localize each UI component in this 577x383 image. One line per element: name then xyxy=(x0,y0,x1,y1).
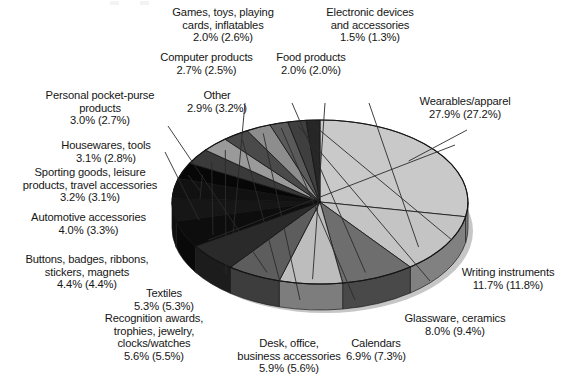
pie-top-faces xyxy=(172,120,468,284)
label-electronic-devices: Electronic devices and accessories 1.5% … xyxy=(300,6,440,44)
label-food-products: Food products 2.0% (2.0%) xyxy=(253,51,369,76)
pie-chart-figure: Games, toys, playing cards, inflatables … xyxy=(0,0,577,383)
label-wearables-apparel: Wearables/apparel 27.9% (27.2%) xyxy=(392,95,538,120)
label-other: Other 2.9% (3.2%) xyxy=(177,89,257,114)
label-recognition-awards: Recognition awards, trophies, jewelry, c… xyxy=(86,312,222,362)
pie-slice-wall xyxy=(279,281,342,310)
label-automotive-accessories: Automotive accessories 4.0% (3.3%) xyxy=(6,211,171,236)
label-sporting-goods: Sporting goods, leisure products, travel… xyxy=(4,166,176,204)
label-glassware-ceramics: Glassware, ceramics 8.0% (9.4%) xyxy=(385,312,525,337)
label-personal-pocket-purse: Personal pocket-purse products 3.0% (2.7… xyxy=(24,89,176,127)
label-buttons-badges: Buttons, badges, ribbons, stickers, magn… xyxy=(2,253,172,291)
label-calendars: Calendars 6.9% (7.3%) xyxy=(325,337,427,362)
label-housewares-tools: Housewares, tools 3.1% (2.8%) xyxy=(37,139,175,164)
label-textiles: Textiles 5.3% (5.3%) xyxy=(123,287,205,312)
label-writing-instruments: Writing instruments 11.7% (11.8%) xyxy=(443,266,573,291)
label-games-toys: Games, toys, playing cards, inflatables … xyxy=(148,6,298,44)
